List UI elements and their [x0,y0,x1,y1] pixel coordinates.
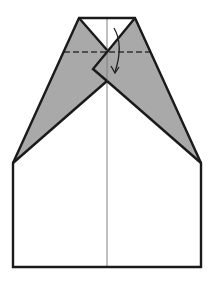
folding-diagram [0,0,215,282]
diagram-canvas [0,0,215,282]
